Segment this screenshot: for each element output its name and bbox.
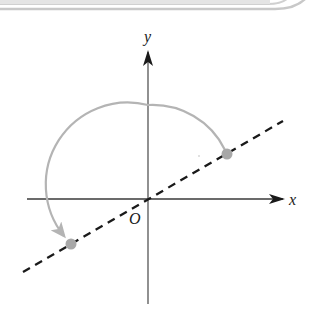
origin-label: O xyxy=(129,210,141,227)
y-axis-label: y xyxy=(142,28,152,46)
top-frame-edge xyxy=(0,0,306,9)
dashed-line xyxy=(23,121,283,272)
lower-point xyxy=(66,239,77,250)
speck-mark xyxy=(198,155,200,157)
diagram-canvas: x y O xyxy=(0,0,317,319)
upper-point xyxy=(222,149,233,160)
x-axis-label: x xyxy=(288,191,296,208)
